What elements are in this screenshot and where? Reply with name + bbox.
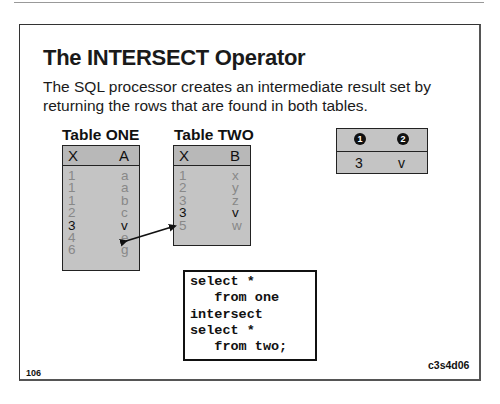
page-number: 106 xyxy=(26,368,41,378)
circled-1-icon: 1 xyxy=(354,133,366,145)
code-line: from two; xyxy=(190,339,315,355)
code-line: select * xyxy=(190,323,315,339)
code-line: intersect xyxy=(190,307,315,323)
result-cell: 3 xyxy=(355,155,363,171)
result-table: 1 2 3 v xyxy=(336,128,428,174)
code-line: select * xyxy=(190,274,315,290)
table-row: 3 v xyxy=(337,152,427,174)
sql-code-box: select * from oneintersectselect * from … xyxy=(183,270,317,361)
result-table-header: 1 2 xyxy=(337,129,427,152)
circled-2-icon: 2 xyxy=(397,133,409,145)
slide-code: c3s4d06 xyxy=(428,359,469,371)
code-line: from one xyxy=(190,290,315,306)
result-cell: v xyxy=(398,155,405,171)
